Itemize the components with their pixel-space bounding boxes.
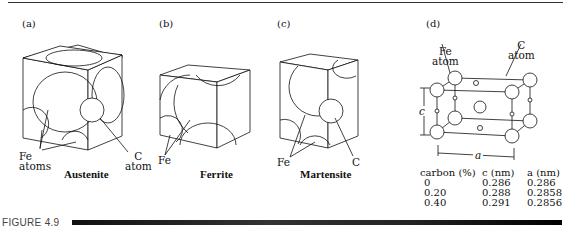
panel-c-tag: (c) [277,18,290,29]
panel-d-tag: (d) [426,18,440,29]
figure-label: FIGURE 4.9 [2,217,59,228]
martensite-c-label: C [352,157,360,167]
table-row: 0.40 0.291 0.2856 [420,198,562,208]
figure-rule [72,220,562,225]
ferrite-caption: Ferrite [200,168,233,180]
lattice-parameter-table: carbon (%) c (nm) a (nm) 0 0.286 0.286 0… [420,168,562,208]
ferrite-fe-label: Fe [158,155,171,165]
panel-b-tag: (b) [159,18,173,29]
dimension-a-label: a [473,150,483,160]
dimension-c-label: c [419,106,425,116]
tetragonal-c-label: Catom [508,40,535,60]
tetragonal-fe-label: Featom [432,46,459,66]
martensite-fe-label: Fe [277,157,290,167]
austenite-c-label: Catom [125,151,152,171]
austenite-cube-drawing [23,45,124,150]
austenite-caption: Austenite [64,168,109,180]
panel-a-tag: (a) [22,18,36,29]
ferrite-cube-drawing [160,65,250,148]
martensite-caption: Martensite [300,168,351,180]
martensite-cube-drawing [280,54,358,148]
austenite-fe-label: Featoms [19,151,51,171]
